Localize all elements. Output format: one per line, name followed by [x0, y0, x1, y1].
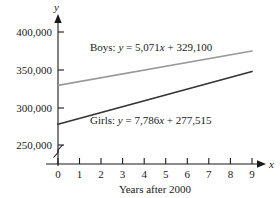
y-axis-arrow-icon [54, 14, 61, 23]
x-axis-arrow-icon [257, 160, 266, 167]
x-tick-label-7: 7 [206, 168, 212, 180]
series-annotation-boys-prefix: Boys: [90, 41, 118, 53]
x-tick-marks [58, 158, 252, 164]
x-tick-label-1: 1 [77, 168, 83, 180]
y-tick-label-350000: 350,000 [16, 64, 52, 76]
x-tick-label-9: 9 [249, 168, 255, 180]
x-tick-label-4: 4 [141, 168, 147, 180]
series-annotation-girls-head: = 7,786 [123, 114, 160, 126]
x-tick-label-3: 3 [120, 168, 126, 180]
series-annotation-boys-tail: + 329,100 [165, 41, 213, 53]
y-axis [54, 14, 61, 166]
x-axis-letter: x [268, 158, 274, 170]
y-axis-letter: y [53, 1, 59, 13]
y-tick-label-400000: 400,000 [16, 26, 52, 38]
x-axis-caption: Years after 2000 [119, 183, 192, 195]
y-tick-label-300000: 300,000 [16, 102, 52, 114]
x-tick-label-5: 5 [163, 168, 169, 180]
x-tick-label-8: 8 [228, 168, 234, 180]
y-tick-label-250000: 250,000 [16, 139, 52, 151]
x-tick-label-6: 6 [185, 168, 191, 180]
series-annotation-girls-prefix: Girls: [90, 114, 118, 126]
linear-trend-chart: 400,000 350,000 300,000 250,000 0 1 2 3 … [0, 0, 280, 198]
series-annotation-girls-tail: + 277,515 [164, 114, 212, 126]
series-annotation-boys: Boys: y = 5,071x + 329,100 [90, 41, 213, 53]
series-annotation-boys-head: = 5,071 [123, 41, 159, 53]
chart-container: 400,000 350,000 300,000 250,000 0 1 2 3 … [0, 0, 280, 198]
series-annotation-girls: Girls: y = 7,786x + 277,515 [90, 114, 212, 126]
y-tick-marks [58, 32, 64, 145]
x-tick-label-0: 0 [55, 168, 61, 180]
x-tick-label-2: 2 [98, 168, 104, 180]
